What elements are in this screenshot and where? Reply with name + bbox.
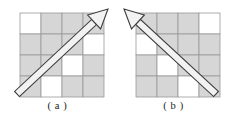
grid-cell [20, 34, 41, 55]
grid-cell [83, 76, 104, 97]
panel-a-caption: ( a ) [0, 100, 115, 112]
grid-cell [136, 55, 157, 76]
grid-cell [199, 55, 220, 76]
grid-cell [83, 34, 104, 55]
grid-cell [178, 13, 199, 34]
grid-cell [62, 76, 83, 97]
figure-panel-a: ( a ) [0, 0, 115, 124]
grid-cell [199, 34, 220, 55]
grid-cell [41, 13, 62, 34]
panel-a-canvas [0, 0, 115, 104]
grid-cell [157, 13, 178, 34]
figure-container: ( a ) ( b ) [0, 0, 231, 124]
panel-b-caption: ( b ) [116, 100, 231, 112]
grid-cell [62, 55, 83, 76]
grid-cell [199, 13, 220, 34]
grid-cell [41, 76, 62, 97]
panel-b-canvas [116, 0, 231, 104]
grid-cell [157, 76, 178, 97]
grid-cell [178, 34, 199, 55]
figure-panel-b: ( b ) [116, 0, 231, 124]
grid-cell [83, 55, 104, 76]
grid-cell [20, 13, 41, 34]
grid-cell [136, 76, 157, 97]
